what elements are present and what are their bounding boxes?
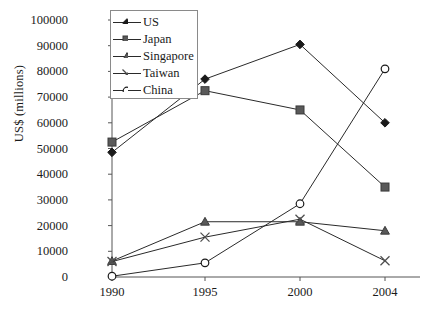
series-taiwan xyxy=(108,215,390,266)
series-line xyxy=(112,219,385,261)
series-line xyxy=(112,222,385,261)
y-tick-label: 100000 xyxy=(6,14,68,26)
y-tick-label: 30000 xyxy=(6,194,68,206)
data-point-circle xyxy=(201,259,209,267)
x-tick-label: 1990 xyxy=(82,286,142,299)
data-point-diamond xyxy=(123,19,128,24)
data-point-cross xyxy=(381,256,390,265)
data-point-circle xyxy=(381,65,389,73)
series-line xyxy=(112,91,385,187)
legend-marker-cross-icon xyxy=(113,65,141,82)
legend-label: Japan xyxy=(141,33,171,46)
y-tick-label: 90000 xyxy=(6,40,68,52)
legend-marker-square-icon xyxy=(113,31,141,48)
series-japan xyxy=(108,87,389,191)
y-tick-label: 50000 xyxy=(6,143,68,155)
line-chart: US$ (millions) 0100002000030000400005000… xyxy=(0,0,428,309)
chart-legend: USJapanSingaporeTaiwanChina xyxy=(110,10,198,99)
data-point-triangle xyxy=(123,53,128,58)
y-tick-label: 70000 xyxy=(6,91,68,103)
y-tick-label: 60000 xyxy=(6,117,68,129)
legend-label: China xyxy=(141,84,173,97)
y-tick-label: 40000 xyxy=(6,168,68,180)
x-tick-label: 1995 xyxy=(175,286,235,299)
legend-marker-circle-icon xyxy=(113,82,141,99)
y-tick-label: 80000 xyxy=(6,65,68,77)
data-point-circle xyxy=(108,272,116,280)
x-tick-label: 2004 xyxy=(355,286,415,299)
legend-label: Taiwan xyxy=(141,67,180,80)
legend-item-taiwan[interactable]: Taiwan xyxy=(111,65,197,82)
data-point-diamond xyxy=(108,148,117,157)
legend-marker-diamond-icon xyxy=(113,14,141,31)
legend-label: Singapore xyxy=(141,50,194,63)
legend-item-singapore[interactable]: Singapore xyxy=(111,48,197,65)
legend-marker-triangle-icon xyxy=(113,48,141,65)
legend-item-japan[interactable]: Japan xyxy=(111,31,197,48)
x-tick-label: 2000 xyxy=(270,286,330,299)
data-point-square xyxy=(201,87,209,95)
data-point-cross xyxy=(201,233,210,242)
y-tick-label: 0 xyxy=(6,271,68,283)
data-point-square xyxy=(381,183,389,191)
data-point-square xyxy=(296,106,304,114)
data-point-square xyxy=(108,138,116,146)
y-tick-label: 10000 xyxy=(6,245,68,257)
y-axis-tick-labels: 0100002000030000400005000060000700008000… xyxy=(0,0,68,309)
data-point-circle xyxy=(296,200,304,208)
legend-item-china[interactable]: China xyxy=(111,82,197,99)
data-point-circle xyxy=(123,87,128,92)
legend-item-us[interactable]: US xyxy=(111,14,197,31)
data-point-square xyxy=(123,36,128,41)
data-point-cross xyxy=(123,70,129,76)
series-singapore xyxy=(108,217,390,264)
data-point-diamond xyxy=(201,75,210,84)
legend-label: US xyxy=(141,16,159,29)
y-tick-label: 20000 xyxy=(6,220,68,232)
